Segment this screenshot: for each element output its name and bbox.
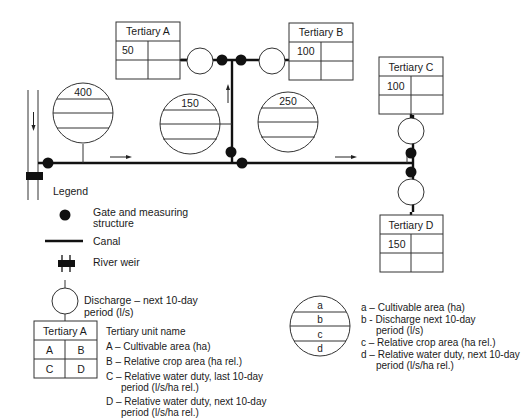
tertiary-area: 100 — [297, 45, 315, 57]
gate-icon — [226, 147, 237, 158]
gate-icon — [43, 158, 54, 169]
legend-circle-a: a — [317, 300, 323, 311]
legend-discharge-label-2: period (l/s) — [84, 306, 134, 318]
secondary-value: 400 — [74, 86, 92, 98]
legend-secondary-sample: a b c d — [290, 296, 350, 356]
legend-circle-c: c — [318, 329, 323, 340]
discharge-circle-a — [187, 48, 213, 74]
legend-title: Legend — [53, 185, 88, 197]
tertiary-unit-a: Tertiary A 50 — [116, 22, 180, 79]
river-weir — [26, 172, 43, 180]
legend-cell-c: C — [46, 363, 54, 375]
legend-canal-label: Canal — [93, 235, 120, 247]
gate-icon — [237, 158, 248, 169]
secondary-unit-150: 150 — [160, 94, 220, 154]
secondary-unit-400: 400 — [53, 83, 113, 143]
gate-icon — [217, 55, 228, 66]
gate-icon — [406, 148, 417, 159]
legend-secondary-desc: d – Relative water duty, next 10-day — [361, 349, 520, 360]
legend-secondary-desc: b - Discharge next 10-day — [361, 314, 476, 325]
legend-circle-b: b — [317, 314, 323, 325]
legend: Legend Gate and measuring structure Cana… — [34, 185, 520, 418]
legend-tertiary-desc: C – Relative water duty, last 10-day — [106, 371, 263, 382]
legend-weir-icon — [58, 255, 75, 272]
legend-tertiary-name: Tertiary A — [43, 325, 87, 337]
gate-icon — [406, 167, 417, 178]
flow-arrow-up-icon — [226, 84, 230, 103]
legend-tertiary-desc: period (l/s/ha rel.) — [121, 382, 199, 393]
legend-cell-d: D — [77, 363, 85, 375]
legend-cell-b: B — [77, 344, 84, 356]
legend-tertiary-desc: period (l/s/ha rel.) — [121, 407, 199, 418]
legend-gate-label-2: structure — [93, 217, 134, 229]
river — [26, 90, 43, 200]
flow-arrow-icon — [110, 155, 132, 159]
legend-secondary-desc: c – Relative crop area (ha rel.) — [361, 337, 496, 348]
tertiary-area: 50 — [122, 44, 134, 56]
flow-arrow-icon — [335, 155, 357, 159]
tertiary-unit-b: Tertiary B 100 — [289, 23, 353, 80]
gate-icon — [236, 55, 247, 66]
legend-discharge-label-1: Discharge – next 10-day — [84, 294, 199, 306]
tertiary-unit-c: Tertiary C 100 — [379, 57, 443, 114]
legend-tertiary-desc: B – Relative crop area (ha rel.) — [106, 356, 242, 367]
secondary-value: 150 — [181, 97, 199, 109]
irrigation-network-diagram: 400 150 250 Tertiary A 50 — [0, 0, 529, 420]
tertiary-unit-d: Tertiary D 150 — [380, 215, 443, 272]
discharge-circle-b — [259, 48, 285, 74]
secondary-unit-250: 250 — [258, 92, 318, 152]
tertiary-name: Tertiary A — [126, 25, 170, 37]
discharge-circle-c — [398, 118, 424, 144]
legend-tertiary-sample: Tertiary A A B C D — [34, 321, 97, 378]
secondary-value: 250 — [279, 95, 297, 107]
legend-discharge-icon — [52, 280, 78, 321]
tertiary-name: Tertiary C — [389, 61, 434, 73]
legend-weir-label: River weir — [93, 256, 140, 268]
discharge-circle-d — [398, 179, 424, 205]
legend-circle-d: d — [317, 343, 323, 354]
legend-tertiary-desc: D – Relative water duty, next 10-day — [106, 396, 266, 407]
legend-tertiary-desc: Tertiary unit name — [106, 326, 186, 337]
legend-tertiary-desc: A – Cultivable area (ha) — [106, 341, 211, 352]
legend-cell-a: A — [46, 344, 53, 356]
river-flow-arrow-icon — [32, 112, 36, 131]
tertiary-name: Tertiary B — [299, 26, 343, 38]
tertiary-area: 150 — [388, 238, 406, 250]
legend-secondary-desc: period (l/s) — [376, 325, 423, 336]
tertiary-area: 100 — [387, 80, 405, 92]
legend-secondary-desc: period (l/s/ha rel.) — [376, 360, 454, 371]
legend-secondary-desc: a – Cultivable area (ha) — [361, 302, 465, 313]
tertiary-name: Tertiary D — [389, 219, 434, 231]
legend-gate-icon — [60, 210, 71, 221]
